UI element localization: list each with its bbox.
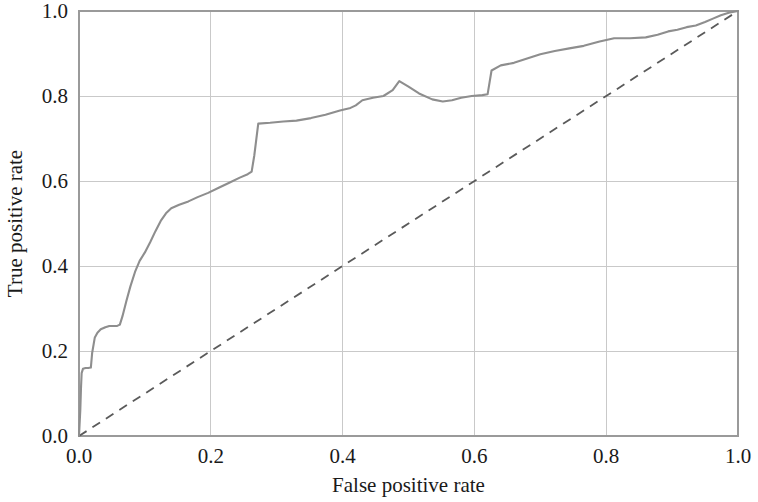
y-axis-title: True positive rate <box>3 150 27 297</box>
x-tick-label: 1.0 <box>725 444 751 468</box>
roc-plot-svg: 0.00.20.40.60.81.0 0.00.20.40.60.81.0 Fa… <box>0 0 758 502</box>
y-tick-label: 1.0 <box>42 0 68 23</box>
y-tick-label: 0.4 <box>42 254 69 278</box>
x-tick-label: 0.8 <box>593 444 619 468</box>
x-tick-label: 0.6 <box>461 444 487 468</box>
x-tick-label: 0.2 <box>198 444 224 468</box>
y-tick-label: 0.6 <box>42 169 68 193</box>
y-tick-label: 0.8 <box>42 84 68 108</box>
x-tick-label: 0.0 <box>66 444 92 468</box>
x-tick-label: 0.4 <box>329 444 356 468</box>
y-tick-label: 0.0 <box>42 424 68 448</box>
y-tick-label: 0.2 <box>42 339 68 363</box>
roc-chart-figure: 0.00.20.40.60.81.0 0.00.20.40.60.81.0 Fa… <box>0 0 758 502</box>
x-axis-title: False positive rate <box>332 473 485 497</box>
